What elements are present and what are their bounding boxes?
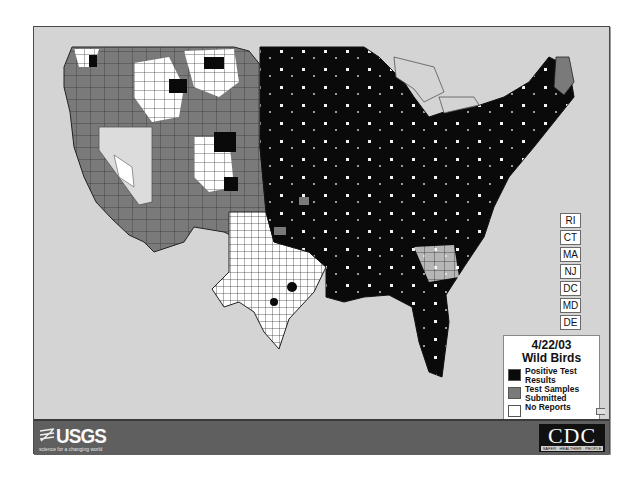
east-region	[260, 47, 574, 377]
no-reports-swatch-icon	[508, 405, 521, 417]
inset-marker-icon	[596, 408, 605, 415]
footer-banner: USGS science for a changing world CDC SA…	[34, 419, 609, 455]
state-label-de: DE	[560, 315, 581, 330]
usgs-wave-icon	[39, 427, 55, 443]
state-label-ma: MA	[560, 247, 581, 262]
state-label-ri: RI	[560, 213, 581, 228]
legend-title: Wild Birds	[508, 352, 595, 365]
map-legend: 4/22/03 Wild Birds Positive Test Results…	[503, 335, 600, 421]
small-state-labels: RI CT MA NJ DC MD DE	[560, 213, 582, 332]
state-label-md: MD	[560, 298, 581, 313]
map-frame: RI CT MA NJ DC MD DE 4/22/03 Wild Birds …	[33, 26, 610, 454]
state-label-dc: DC	[560, 281, 581, 296]
cdc-logo: CDC SAFER · HEALTHIER · PEOPLE	[539, 424, 605, 452]
legend-item-positive: Positive Test Results	[508, 367, 595, 384]
state-label-nj: NJ	[560, 264, 581, 279]
submitted-swatch-icon	[508, 387, 521, 399]
state-label-ct: CT	[560, 230, 581, 245]
legend-item-submitted: Test Samples Submitted	[508, 385, 595, 402]
positive-swatch-icon	[508, 369, 521, 381]
legend-item-no-reports: No Reports	[508, 403, 595, 417]
usgs-logo: USGS science for a changing world	[39, 424, 107, 452]
